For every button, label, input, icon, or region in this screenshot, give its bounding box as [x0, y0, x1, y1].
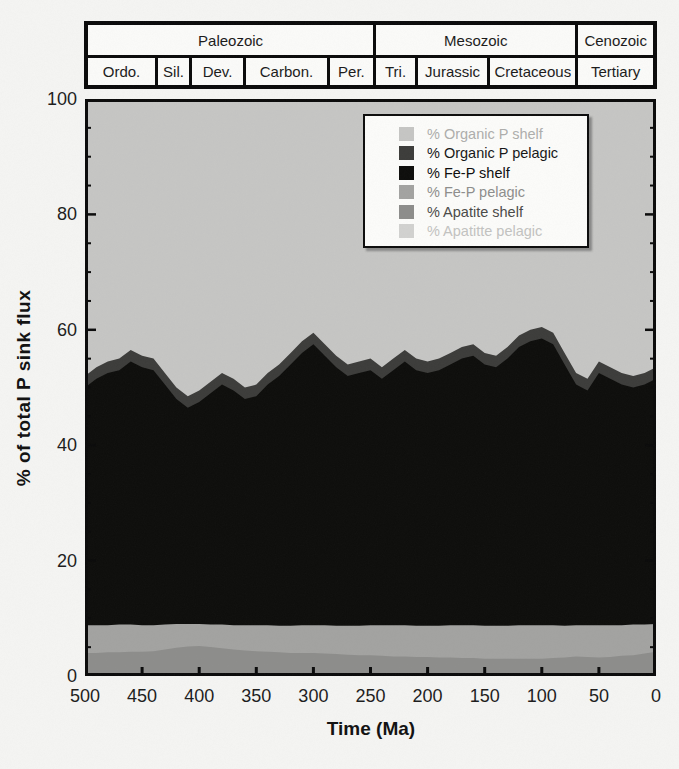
y-tick-label: 60	[31, 319, 77, 340]
x-tick-label: 0	[651, 686, 661, 707]
period-cell-dev: Dev.	[192, 58, 243, 85]
legend-swatch-icon	[399, 185, 414, 199]
period-row: Ordo.Sil.Dev.Carbon.Per.Tri.JurassicCret…	[88, 58, 653, 85]
geologic-timescale-band: PaleozoicMesozoicCenozoic Ordo.Sil.Dev.C…	[84, 21, 657, 89]
period-cell-ordo: Ordo.	[88, 58, 155, 85]
legend-row: % Apatite shelf	[399, 202, 587, 222]
legend: % Organic P shelf% Organic P pelagic% Fe…	[363, 114, 589, 248]
legend-label: % Organic P pelagic	[427, 146, 558, 161]
x-tick-label: 500	[70, 686, 100, 707]
legend-row: % Apatitte pelagic	[399, 222, 587, 242]
era-cell-cenozoic: Cenozoic	[578, 25, 653, 55]
y-tick-label: 100	[31, 89, 77, 110]
x-tick-label: 300	[298, 686, 328, 707]
y-tick-label: 80	[31, 204, 77, 225]
legend-row: % Organic P shelf	[399, 124, 587, 144]
y-tick-label: 0	[31, 666, 77, 687]
legend-label: % Fe-P pelagic	[427, 185, 525, 200]
period-cell-sil: Sil.	[158, 58, 189, 85]
period-cell-jurassic: Jurassic	[418, 58, 487, 85]
x-tick-label: 250	[355, 686, 385, 707]
x-tick-label: 400	[184, 686, 214, 707]
y-tick-label: 20	[31, 550, 77, 571]
legend-label: % Apatitte pelagic	[427, 224, 542, 239]
period-cell-cretaceous: Cretaceous	[490, 58, 575, 85]
legend-swatch-icon	[399, 146, 414, 160]
x-tick-label: 450	[127, 686, 157, 707]
era-row: PaleozoicMesozoicCenozoic	[88, 25, 653, 55]
legend-swatch-icon	[399, 224, 414, 238]
x-tick-label: 200	[413, 686, 443, 707]
period-cell-carbon: Carbon.	[246, 58, 327, 85]
legend-label: % Fe-P shelf	[427, 166, 510, 181]
era-cell-paleozoic: Paleozoic	[88, 25, 373, 55]
period-cell-tri: Tri.	[376, 58, 415, 85]
period-cell-per: Per.	[330, 58, 373, 85]
x-tick-label: 150	[470, 686, 500, 707]
x-tick-label: 50	[589, 686, 609, 707]
legend-label: % Apatite shelf	[427, 205, 523, 220]
legend-row: % Fe-P pelagic	[399, 183, 587, 203]
legend-row: % Fe-P shelf	[399, 163, 587, 183]
figure: PaleozoicMesozoicCenozoic Ordo.Sil.Dev.C…	[0, 0, 679, 769]
period-cell-tertiary: Tertiary	[578, 58, 653, 85]
legend-label: % Organic P shelf	[427, 127, 543, 142]
era-cell-mesozoic: Mesozoic	[376, 25, 575, 55]
x-axis-title: Time (Ma)	[327, 718, 415, 740]
y-tick-label: 40	[31, 435, 77, 456]
legend-row: % Organic P pelagic	[399, 144, 587, 164]
legend-swatch-icon	[399, 205, 414, 219]
x-tick-label: 350	[241, 686, 271, 707]
legend-swatch-icon	[399, 127, 414, 141]
legend-swatch-icon	[399, 166, 414, 180]
x-tick-label: 100	[527, 686, 557, 707]
